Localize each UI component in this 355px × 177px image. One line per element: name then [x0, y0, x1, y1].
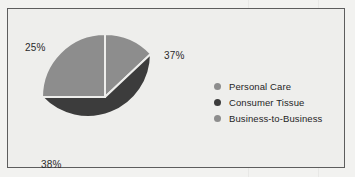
pie-label-consumer-tissue: 38%	[41, 159, 62, 170]
legend-swatch-icon	[214, 115, 221, 122]
legend-item-business-to-business: Business-to-Business	[214, 111, 354, 126]
pie-label-business-to-business: 25%	[25, 42, 46, 53]
legend-label-personal-care: Personal Care	[229, 81, 291, 92]
pie-chart	[42, 34, 168, 160]
pie-slice-business-to-business	[42, 34, 105, 97]
pie-label-personal-care: 37%	[164, 50, 185, 61]
chart-legend: Personal Care Consumer Tissue Business-t…	[214, 79, 354, 127]
legend-item-personal-care: Personal Care	[214, 79, 354, 94]
chart-frame: 37% 38% 25% Personal Care Consumer Tissu…	[7, 8, 345, 168]
chart-figure: 37% 38% 25% Personal Care Consumer Tissu…	[0, 0, 355, 177]
legend-swatch-icon	[214, 99, 221, 106]
legend-item-consumer-tissue: Consumer Tissue	[214, 95, 354, 110]
legend-swatch-icon	[214, 83, 221, 90]
legend-label-consumer-tissue: Consumer Tissue	[229, 97, 304, 108]
pie-svg	[42, 34, 168, 160]
legend-label-business-to-business: Business-to-Business	[229, 113, 322, 124]
